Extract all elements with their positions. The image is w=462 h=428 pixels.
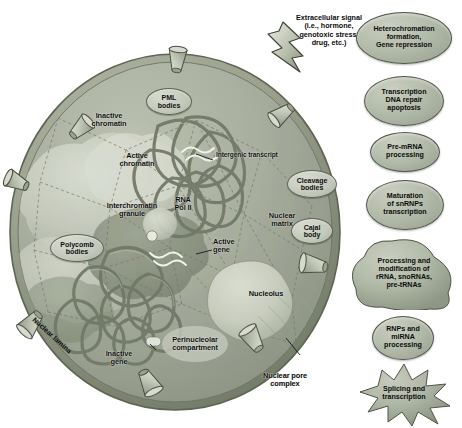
- label-interchromatin-granule: Interchromatin granule: [96, 202, 168, 217]
- legend-item-heterochromatin-formation: Heterochromation formation, Gene repress…: [356, 12, 452, 64]
- body-cleavage-bodies: Cleavage bodies: [287, 170, 337, 198]
- label-nuclear-pore-complex: Nuclear pore complex: [253, 372, 317, 387]
- label-intergenic-transcript: Intergenic transcript: [216, 152, 300, 159]
- legend-item-rnps-mirna-processing: RNPs and miRNA processing: [372, 316, 434, 360]
- legend-column: Heterochromation formation, Gene repress…: [346, 0, 462, 428]
- legend-item-transcription-dna-repair: Transcription DNA repair apoptosis: [364, 76, 444, 126]
- label-rna-pol-ii: RNA Pol II: [166, 196, 200, 211]
- legend-item-pre-mrna-processing: Pre-mRNA processing: [370, 132, 440, 172]
- label-inactive-chromatin: Inactive chromatin: [78, 112, 140, 127]
- legend-shape-rrna-processing: Processing and modification of rRNA, sno…: [352, 238, 456, 310]
- rna-pol-ii-dot: [147, 231, 157, 241]
- legend-item-splicing-transcription: Splicing and transcription: [354, 362, 454, 426]
- legend-item-maturation-snrnps: Maturation of snRNPs transcription: [366, 180, 444, 230]
- label-nucleolus: Nucleolus: [240, 290, 292, 298]
- legend-shape-splicing-transcription: Splicing and transcription: [354, 362, 454, 426]
- inactive-gene-capsule: [146, 337, 161, 346]
- label-perinucleolar-compartment: Perinucleolar compartment: [162, 336, 228, 351]
- label-active-gene: Active gene: [213, 238, 247, 253]
- figure-canvas: Inactive chromatin Active chromatin Inte…: [0, 0, 462, 428]
- body-pml-bodies: PML bodies: [146, 88, 192, 115]
- body-cajal-body: Cajal body: [291, 218, 333, 244]
- body-polycomb-bodies: Polycomb bodies: [50, 234, 104, 262]
- legend-item-rrna-processing: Processing and modification of rRNA, sno…: [352, 238, 456, 310]
- label-active-chromatin: Active chromatin: [108, 152, 166, 167]
- label-inactive-gene: Inactive gene: [98, 350, 140, 365]
